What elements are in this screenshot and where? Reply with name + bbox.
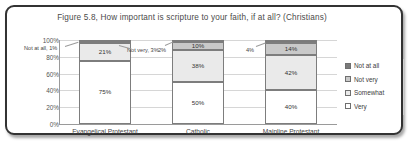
y-axis-line [59,40,60,124]
y-tick-100: 100% [13,37,59,44]
segment-value-very: 50% [192,100,204,106]
legend-label-not-very: Not very [354,76,378,83]
segment-somewhat[interactable]: 42% [265,55,317,90]
legend-label-not-at-all: Not at all [354,62,379,69]
segment-value-somewhat: 38% [192,63,204,69]
y-tick-20: 20% [13,104,59,111]
segment-value-very: 40% [285,104,297,110]
light-gray-swatch-icon [345,90,351,96]
segment-very[interactable]: 75% [79,61,131,124]
segment-value-somewhat: 42% [285,70,297,76]
segment-value-somewhat: 21% [99,49,111,55]
legend-item-not-very[interactable]: Not very [345,76,403,83]
leader-line-evangelical-not-at-all [65,42,79,47]
legend-item-somewhat[interactable]: Somewhat [345,89,403,96]
bar-catholic[interactable]: 10% 38% 50% [172,40,224,124]
segment-very[interactable]: 50% [172,82,224,124]
callout-evangelical-not-at-all: Not at all, 1% [24,45,57,51]
y-tick-40: 40% [13,87,59,94]
segment-not-very[interactable]: 10% [172,42,224,50]
chart-legend: Not at all Not very Somewhat Very [345,62,403,116]
x-axis-line [59,124,337,125]
callout-mainline-not-at-all: 4% [246,47,254,53]
segment-value-not-very: 10% [192,43,204,49]
y-tick-60: 60% [13,71,59,78]
segment-value-not-very: 14% [285,46,297,52]
segment-value-very: 75% [99,89,111,95]
segment-very[interactable]: 40% [265,90,317,124]
dark-gray-swatch-icon [345,63,351,69]
legend-divider [403,59,404,115]
category-label-mainline-protestant: Mainline Protestant [231,128,351,135]
legend-item-not-at-all[interactable]: Not at all [345,62,403,69]
segment-somewhat[interactable]: 38% [172,50,224,82]
figure-frame: Figure 5.8, How important is scripture t… [5,5,403,135]
chart-canvas: Figure 5.8, How important is scripture t… [7,7,405,137]
chart-title: Figure 5.8, How important is scripture t… [27,13,357,22]
y-axis-labels: 100% 80% 60% 40% 20% 0% [7,7,59,137]
legend-label-very: Very [354,103,367,110]
medium-gray-swatch-icon [345,76,351,82]
bar-evangelical-protestant[interactable]: 21% 75% [79,40,131,124]
legend-item-very[interactable]: Very [345,103,403,110]
callout-catholic-not-at-all: 2% [158,47,166,53]
legend-label-somewhat: Somewhat [354,89,384,96]
bar-mainline-protestant[interactable]: 14% 42% 40% [265,40,317,124]
white-swatch-icon [345,103,351,109]
segment-not-very[interactable]: 14% [265,43,317,55]
y-tick-0: 0% [13,121,59,128]
y-tick-80: 80% [13,54,59,61]
